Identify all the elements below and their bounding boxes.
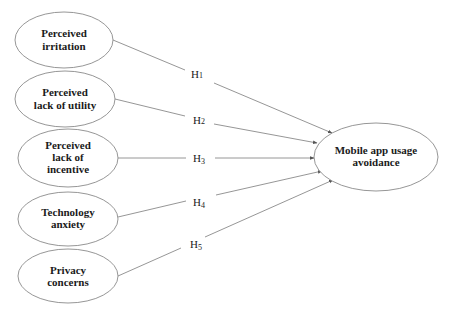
node-perceived-irritation: Perceived irritation: [15, 12, 113, 68]
node-technology-anxiety: Technology anxiety: [18, 192, 118, 246]
node-label-line: anxiety: [51, 218, 86, 230]
node-label-line: Technology: [41, 206, 95, 218]
node-label-line: Privacy: [50, 264, 87, 276]
node-label-line: concerns: [47, 276, 89, 288]
hypothesis-label-h1: H1: [191, 68, 203, 80]
hypothesis-label-h5: H5: [190, 238, 202, 252]
node-label-line: Perceived: [45, 139, 91, 151]
node-label-line: Mobile app usage: [335, 144, 418, 156]
node-label-line: irritation: [42, 40, 85, 52]
node-mobile-app-usage-avoidance: Mobile app usage avoidance: [314, 123, 438, 191]
hypothesis-label-h4: H4: [193, 196, 205, 210]
edge-h5: [118, 180, 333, 276]
node-perceived-lack-of-incentive: Perceived lack of incentive: [18, 129, 118, 187]
node-label-line: avoidance: [352, 156, 399, 168]
node-label-line: lack of: [52, 151, 84, 163]
hypothesis-label-h3: H3: [193, 152, 205, 166]
edge-h1: [113, 40, 332, 133]
node-label-line: Perceived: [41, 27, 87, 39]
node-label-line: lack of utility: [34, 99, 97, 111]
hypothesis-label-h2: H2: [193, 114, 205, 126]
edge-h4: [118, 171, 322, 217]
node-label-line: Perceived: [42, 86, 88, 98]
node-label-line: incentive: [47, 163, 89, 175]
edge-h2: [115, 99, 317, 143]
path-diagram: H1 H2 H3 H4 H5 Perceived irritation Perc…: [0, 0, 451, 319]
node-privacy-concerns: Privacy concerns: [18, 249, 118, 303]
node-perceived-lack-of-utility: Perceived lack of utility: [15, 71, 115, 127]
